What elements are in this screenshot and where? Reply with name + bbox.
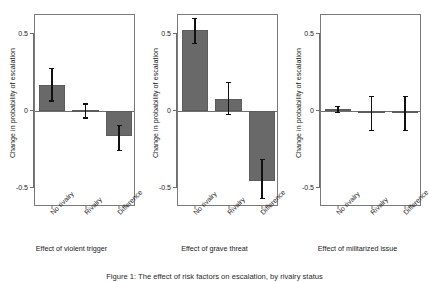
- error-bar-cap: [83, 117, 88, 118]
- y-axis-tick-label: 0: [310, 107, 314, 114]
- x-axis-category-labels: No rivalryRivalryDifference: [321, 205, 420, 249]
- error-bar-cap: [403, 96, 408, 97]
- x-axis-category-labels: No rivalryRivalryDifference: [178, 205, 277, 249]
- error-bar: [118, 125, 120, 150]
- error-bar: [51, 68, 53, 101]
- error-bar: [404, 96, 406, 130]
- error-bar-cap: [49, 100, 54, 101]
- error-bar: [261, 159, 263, 198]
- error-bar-cap: [335, 112, 340, 113]
- x-axis-title: Effect of militarized issue: [286, 244, 429, 253]
- error-bar-cap: [260, 198, 265, 199]
- y-axis-tick-label: -0.5: [159, 184, 171, 191]
- plot-area: No rivalryRivalryDifference: [177, 14, 278, 206]
- error-bar-cap: [192, 43, 197, 44]
- error-bar-cap: [403, 130, 408, 131]
- y-axis-tick-label: 0.5: [18, 29, 28, 36]
- error-bar-cap: [369, 96, 374, 97]
- error-bar: [371, 96, 373, 130]
- y-axis: -0.500.5: [167, 14, 177, 206]
- plot-inner: [35, 15, 134, 205]
- y-axis-label-text: Change in probability of escalation: [295, 47, 303, 157]
- panel-row: Change in probability of escalation -0.5…: [0, 0, 429, 258]
- error-bar-cap: [83, 103, 88, 104]
- error-bar-cap: [226, 82, 231, 83]
- y-axis-tick-label: 0.5: [304, 29, 314, 36]
- error-bar-cap: [192, 18, 197, 19]
- error-bar: [194, 18, 196, 43]
- y-axis-tick-label: 0.5: [161, 29, 171, 36]
- y-axis: -0.500.5: [310, 14, 320, 206]
- plot-area: No rivalryRivalryDifference: [34, 14, 135, 206]
- x-axis-title: Effect of violent trigger: [0, 244, 143, 253]
- y-axis-tick-label: -0.5: [302, 184, 314, 191]
- plot-inner: [178, 15, 277, 205]
- error-bar-cap: [226, 114, 231, 115]
- plot-area: No rivalryRivalryDifference: [320, 14, 421, 206]
- y-axis-tick-label: -0.5: [16, 184, 28, 191]
- x-axis-title: Effect of grave threat: [143, 244, 286, 253]
- x-axis-category-labels: No rivalryRivalryDifference: [35, 205, 134, 249]
- error-bar-cap: [49, 68, 54, 69]
- y-axis-label-text: Change in probability of escalation: [9, 47, 17, 157]
- error-bar: [85, 103, 87, 117]
- figure-container: Change in probability of escalation -0.5…: [0, 0, 429, 282]
- y-axis-label-text: Change in probability of escalation: [152, 47, 160, 157]
- error-bar-cap: [117, 150, 122, 151]
- chart-panel-violent-trigger: Change in probability of escalation -0.5…: [0, 0, 143, 258]
- y-axis: -0.500.5: [24, 14, 34, 206]
- error-bar-cap: [369, 130, 374, 131]
- error-bar-cap: [117, 125, 122, 126]
- error-bar: [228, 82, 230, 115]
- error-bar-cap: [335, 106, 340, 107]
- plot-inner: [321, 15, 420, 205]
- chart-panel-grave-threat: Change in probability of escalation -0.5…: [143, 0, 286, 258]
- figure-caption: Figure 1: The effect of risk factors on …: [0, 272, 429, 282]
- y-axis-tick-label: 0: [167, 107, 171, 114]
- chart-panel-militarized-issue: Change in probability of escalation -0.5…: [286, 0, 429, 258]
- y-axis-tick-label: 0: [24, 107, 28, 114]
- error-bar-cap: [260, 159, 265, 160]
